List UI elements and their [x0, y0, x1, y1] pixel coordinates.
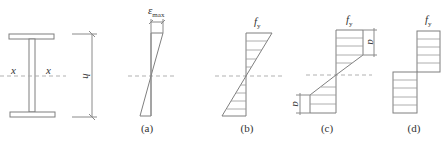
emax-label: εmax	[148, 4, 165, 19]
caption-a: (a)	[141, 122, 154, 135]
a-label-bottom: a	[291, 101, 303, 107]
panel-a-strain: εmax (a)	[128, 4, 176, 135]
plastic-block-bottom	[393, 72, 417, 113]
fy-label-b: fy	[254, 15, 261, 30]
depth-dimension: h	[72, 31, 97, 120]
strain-diagram-lower	[140, 76, 151, 116]
fy-label-d: fy	[425, 13, 432, 28]
depth-label: h	[81, 73, 93, 79]
plastic-block-top	[417, 31, 440, 72]
strain-diagram	[151, 33, 163, 76]
web	[29, 39, 35, 112]
caption-b: (b)	[241, 122, 254, 135]
stress-triangle-bottom	[222, 76, 246, 116]
i-beam-section: x x	[0, 34, 66, 117]
panel-b-elastic-stress: fy (b)	[215, 15, 282, 135]
stress-block-bottom	[310, 75, 336, 113]
axis-label-right: x	[45, 64, 51, 76]
caption-c: (c)	[321, 122, 334, 135]
beam-stress-diagram: x x h εmax (a)	[0, 0, 445, 142]
panel-c-partial-plastic: a a fy (c)	[291, 13, 378, 135]
top-flange	[9, 34, 54, 39]
fy-label-c: fy	[346, 13, 353, 28]
axis-label-left: x	[10, 64, 16, 76]
caption-d: (d)	[408, 122, 421, 135]
bottom-flange	[10, 112, 55, 117]
panel-d-full-plastic: fy (d)	[393, 13, 440, 135]
stress-triangle-top	[246, 33, 272, 76]
a-label-top: a	[366, 39, 378, 45]
stress-block-top	[336, 30, 363, 75]
